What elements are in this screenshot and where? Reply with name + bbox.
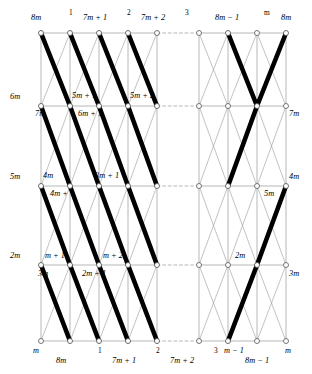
- vertex-label-row2: 6m + 1: [78, 110, 102, 118]
- vertex-label-row4: 3m: [289, 270, 299, 278]
- graph-vertex[interactable]: [284, 31, 289, 36]
- graph-vertex[interactable]: [155, 184, 160, 189]
- vertex-label-top: 8m − 1: [215, 14, 239, 22]
- graph-vertex[interactable]: [255, 31, 260, 36]
- vertex-label-bottom: m: [285, 347, 291, 355]
- graph-vertex[interactable]: [97, 339, 102, 344]
- graph-vertex[interactable]: [255, 184, 260, 189]
- graph-vertex[interactable]: [126, 263, 131, 268]
- vertex-label-row4: 2m: [235, 252, 245, 260]
- vertex-label-top: 1: [69, 9, 73, 16]
- graph-vertex[interactable]: [68, 263, 73, 268]
- vertex-label-bottom: m − 1: [224, 347, 244, 355]
- graph-vertex[interactable]: [97, 104, 102, 109]
- vertex-label-row2: 6m: [10, 93, 20, 101]
- graph-vertex[interactable]: [197, 184, 202, 189]
- vertex-label-row3: 4m + 1: [50, 190, 74, 198]
- vertex-label-row4: m + 1: [45, 252, 65, 260]
- vertex-label-row2: 7m: [289, 110, 299, 118]
- graph-vertex[interactable]: [155, 31, 160, 36]
- vertex-label-row3: 5m: [264, 190, 274, 198]
- graph-vertex[interactable]: [226, 263, 231, 268]
- vertex-label-row3: 4m: [289, 173, 299, 181]
- vertex-label-row4: m + 2: [103, 252, 123, 260]
- vertex-label-top: 8m: [281, 14, 291, 22]
- graph-vertex[interactable]: [68, 339, 73, 344]
- vertex-label-bottom: m: [33, 347, 39, 355]
- graph-vertex[interactable]: [226, 184, 231, 189]
- vertex-label-bottom: 7m + 1: [112, 357, 136, 365]
- vertex-label-top: 7m + 2: [141, 14, 165, 22]
- vertex-label-row2: 7m: [35, 110, 45, 118]
- vertex-label-bottom: 8m: [56, 357, 66, 365]
- vertex-label-row2: 5m + 2: [130, 92, 154, 100]
- graph-vertex[interactable]: [97, 31, 102, 36]
- graph-vertex[interactable]: [97, 184, 102, 189]
- vertex-label-top: 7m + 1: [83, 14, 107, 22]
- graph-vertex[interactable]: [155, 104, 160, 109]
- graph-vertex[interactable]: [255, 339, 260, 344]
- vertex-label-bottom: 1: [98, 347, 102, 354]
- graph-vertex[interactable]: [155, 263, 160, 268]
- graph-vertex[interactable]: [155, 339, 160, 344]
- vertex-label-row3: 5m: [10, 173, 20, 181]
- vertex-label-top: 8m: [31, 14, 41, 22]
- vertex-label-bottom: 3: [214, 347, 218, 354]
- graph-vertex[interactable]: [39, 339, 44, 344]
- vertex-label-top: 2: [127, 9, 131, 16]
- graph-vertex[interactable]: [39, 263, 44, 268]
- graph-vertex[interactable]: [284, 339, 289, 344]
- vertex-label-row4: 2m + 1: [82, 270, 106, 278]
- graph-vertex[interactable]: [68, 104, 73, 109]
- graph-vertex[interactable]: [97, 263, 102, 268]
- graph-vertex[interactable]: [226, 31, 231, 36]
- graph-vertex[interactable]: [68, 31, 73, 36]
- vertex-label-row3: 4m: [43, 172, 53, 180]
- figure-canvas: 8m17m + 127m + 238m − 1m8m6m5m + 15m + 2…: [0, 0, 312, 374]
- graph-vertex[interactable]: [226, 104, 231, 109]
- graph-vertex[interactable]: [197, 104, 202, 109]
- graph-vertex[interactable]: [39, 184, 44, 189]
- graph-vertex[interactable]: [255, 104, 260, 109]
- graph-vertex[interactable]: [284, 263, 289, 268]
- graph-vertex[interactable]: [126, 339, 131, 344]
- graph-vertex[interactable]: [126, 31, 131, 36]
- graph-vertex[interactable]: [68, 184, 73, 189]
- graph-vertex[interactable]: [255, 263, 260, 268]
- vertex-label-bottom: 7m + 2: [170, 357, 194, 365]
- vertex-label-bottom: 8m − 1: [245, 357, 269, 365]
- graph-vertex[interactable]: [39, 31, 44, 36]
- vertex-label-top: 3: [185, 9, 189, 16]
- graph-vertex[interactable]: [197, 263, 202, 268]
- graph-vertex[interactable]: [197, 339, 202, 344]
- graph-vertex[interactable]: [126, 184, 131, 189]
- vertex-label-row4: 3m: [38, 270, 48, 278]
- graph-vertex[interactable]: [126, 104, 131, 109]
- graph-vertex[interactable]: [226, 339, 231, 344]
- vertex-label-row2: 5m + 1: [72, 92, 96, 100]
- graph-vertex[interactable]: [284, 184, 289, 189]
- vertex-label-bottom: 2: [156, 347, 160, 354]
- graph-vertex[interactable]: [284, 104, 289, 109]
- vertex-label-row4: 2m: [10, 252, 20, 260]
- graph-vertex[interactable]: [39, 104, 44, 109]
- lattice-graph: [0, 0, 312, 374]
- vertex-label-top: m: [264, 9, 270, 16]
- graph-vertex[interactable]: [197, 31, 202, 36]
- vertex-label-row3: 3m + 1: [95, 172, 119, 180]
